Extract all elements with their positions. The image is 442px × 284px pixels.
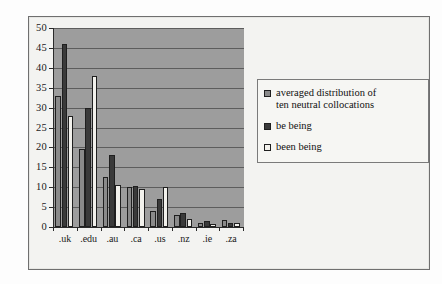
bar bbox=[127, 187, 133, 227]
y-axis-tick-label: 35 bbox=[36, 82, 47, 93]
plot-area bbox=[53, 28, 244, 228]
y-axis-tick bbox=[49, 68, 53, 69]
x-axis-tick-label: .za bbox=[225, 234, 236, 244]
legend-item: been being bbox=[264, 141, 422, 153]
legend-swatch-icon bbox=[264, 144, 271, 151]
legend-label-line: ten neutral collocations bbox=[276, 99, 374, 110]
x-axis: .uk.edu.au.ca.us.nz.ie.za bbox=[53, 227, 243, 249]
y-axis-tick bbox=[49, 147, 53, 148]
bar bbox=[157, 199, 163, 227]
bar-group bbox=[54, 28, 78, 227]
y-axis-tick bbox=[49, 28, 53, 29]
y-axis-tick-label: 40 bbox=[36, 63, 47, 74]
bar-group bbox=[220, 28, 244, 227]
plot-wrapper: 05101520253035404550 .uk.edu.au.ca.us.nz… bbox=[53, 28, 243, 227]
y-axis-tick-label: 10 bbox=[36, 182, 47, 193]
bar-group bbox=[125, 28, 149, 227]
legend-label: been being bbox=[276, 141, 322, 153]
legend-item: be being bbox=[264, 120, 422, 132]
x-axis-tick-label: .ie bbox=[203, 234, 213, 244]
x-axis-tick-label: .nz bbox=[178, 234, 190, 244]
bar bbox=[222, 220, 228, 227]
y-axis-tick bbox=[49, 108, 53, 109]
bar bbox=[174, 215, 180, 227]
x-axis-tick bbox=[219, 227, 220, 231]
y-axis-tick-label: 5 bbox=[42, 202, 47, 213]
bar bbox=[55, 96, 61, 227]
bar-group bbox=[197, 28, 221, 227]
chart-legend: averaged distribution of ten neutral col… bbox=[257, 79, 429, 163]
y-axis-tick-label: 25 bbox=[36, 122, 47, 133]
bar bbox=[133, 186, 139, 227]
bar-group bbox=[102, 28, 126, 227]
x-axis-tick-label: .au bbox=[106, 234, 118, 244]
x-axis-tick bbox=[53, 227, 54, 231]
x-axis-tick-label: .uk bbox=[59, 234, 72, 244]
bar bbox=[187, 219, 193, 227]
y-axis-tick-label: 20 bbox=[36, 142, 47, 153]
y-axis-tick-label: 50 bbox=[36, 23, 47, 34]
legend-label: averaged distribution of ten neutral col… bbox=[276, 87, 376, 111]
y-axis-tick-label: 0 bbox=[42, 222, 47, 233]
x-axis-tick bbox=[101, 227, 102, 231]
y-axis-tick-label: 15 bbox=[36, 162, 47, 173]
bar-group bbox=[149, 28, 173, 227]
bar bbox=[150, 211, 156, 227]
bar bbox=[79, 149, 85, 227]
y-axis-tick bbox=[49, 167, 53, 168]
bar bbox=[85, 108, 91, 227]
chart-frame: 05101520253035404550 .uk.edu.au.ca.us.nz… bbox=[28, 16, 430, 270]
legend-label-line: averaged distribution of bbox=[276, 87, 376, 98]
x-axis-tick-label: .ca bbox=[130, 234, 141, 244]
bar-group bbox=[78, 28, 102, 227]
bar bbox=[92, 76, 98, 227]
y-axis-tick-label: 30 bbox=[36, 102, 47, 113]
y-axis-tick-label: 45 bbox=[36, 43, 47, 54]
legend-label: be being bbox=[276, 120, 312, 132]
y-axis-tick bbox=[49, 207, 53, 208]
x-axis-tick bbox=[124, 227, 125, 231]
bar bbox=[68, 116, 74, 227]
bar bbox=[163, 187, 169, 227]
bar-group bbox=[173, 28, 197, 227]
x-axis-tick bbox=[77, 227, 78, 231]
legend-swatch-icon bbox=[264, 123, 271, 130]
x-axis-tick bbox=[196, 227, 197, 231]
x-axis-tick-label: .us bbox=[154, 234, 165, 244]
x-axis-tick bbox=[243, 227, 244, 231]
chart-page: 05101520253035404550 .uk.edu.au.ca.us.nz… bbox=[0, 0, 442, 284]
y-axis-tick bbox=[49, 187, 53, 188]
bar bbox=[103, 177, 109, 227]
x-axis-tick bbox=[172, 227, 173, 231]
bar-series-container bbox=[54, 28, 244, 227]
y-axis-tick bbox=[49, 88, 53, 89]
bar bbox=[62, 44, 68, 227]
y-axis-tick bbox=[49, 128, 53, 129]
bar bbox=[115, 185, 121, 227]
bar bbox=[109, 155, 115, 227]
bar bbox=[139, 189, 145, 227]
x-axis-tick-label: .edu bbox=[80, 234, 97, 244]
bar bbox=[180, 213, 186, 227]
y-axis-tick bbox=[49, 48, 53, 49]
legend-item: averaged distribution of ten neutral col… bbox=[264, 87, 422, 111]
x-axis-tick bbox=[148, 227, 149, 231]
legend-swatch-icon bbox=[264, 90, 271, 97]
